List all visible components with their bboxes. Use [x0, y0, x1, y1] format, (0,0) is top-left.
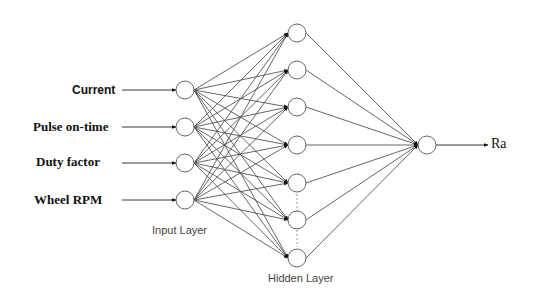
hidden-output-connection	[306, 70, 418, 145]
neural-network-diagram: Current Pulse on-time Duty factor Wheel …	[0, 0, 536, 303]
hidden-node	[288, 211, 306, 229]
input-hidden-connection	[194, 163, 288, 258]
input-hidden-connection	[194, 200, 288, 220]
output-node	[418, 136, 436, 154]
input-hidden-connection	[194, 33, 288, 127]
input-node	[176, 81, 194, 99]
hidden-output-connection	[306, 145, 418, 220]
hidden-output-connection	[306, 107, 418, 145]
hidden-node	[288, 98, 306, 116]
hidden-node	[288, 249, 306, 267]
hidden-node	[288, 61, 306, 79]
input-hidden-connection	[194, 33, 288, 90]
input-hidden-connection	[194, 127, 288, 258]
hidden-output-connection	[306, 145, 418, 183]
input-label-duty-factor: Duty factor	[36, 155, 100, 169]
input-node	[176, 118, 194, 136]
input-label-wheel-rpm: Wheel RPM	[34, 193, 102, 207]
hidden-output-connection	[306, 33, 418, 145]
input-layer-label: Input Layer	[152, 224, 207, 236]
input-label-current: Current	[72, 83, 115, 97]
hidden-node	[288, 136, 306, 154]
hidden-node	[288, 174, 306, 192]
network-connections	[0, 0, 536, 303]
input-hidden-connection	[194, 127, 288, 220]
hidden-node	[288, 24, 306, 42]
output-label-ra: Ra	[491, 136, 507, 152]
hidden-layer-label: Hidden Layer	[268, 272, 333, 284]
input-node	[176, 154, 194, 172]
input-node	[176, 191, 194, 209]
input-hidden-connection	[194, 127, 288, 145]
hidden-output-connection	[306, 145, 418, 258]
input-hidden-connection	[194, 200, 288, 258]
input-label-pulse-on-time: Pulse on-time	[33, 120, 108, 134]
